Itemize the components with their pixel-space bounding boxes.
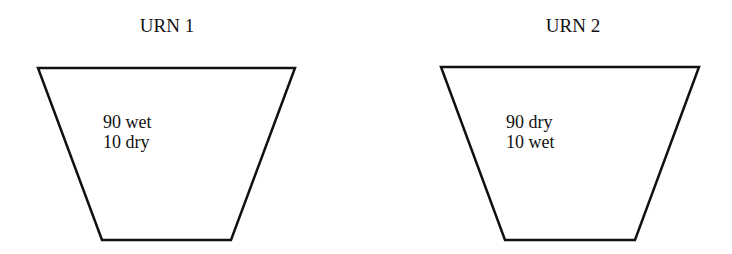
urn-1-shape (38, 68, 295, 240)
urn-1-line-1: 90 wet (103, 112, 152, 132)
urn-2-title: URN 2 (546, 15, 600, 37)
urn-2-contents: 90 dry 10 wet (506, 112, 555, 152)
urn-1-title: URN 1 (140, 15, 194, 37)
urn-1-line-2: 10 dry (103, 132, 152, 152)
urn-2-line-2: 10 wet (506, 132, 555, 152)
urn-2-shape (441, 67, 699, 240)
urn-2-line-1: 90 dry (506, 112, 555, 132)
urn-1-contents: 90 wet 10 dry (103, 112, 152, 152)
